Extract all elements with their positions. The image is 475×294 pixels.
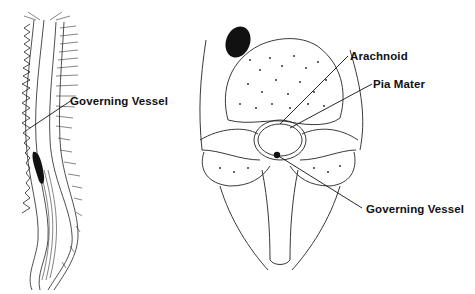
- vertebra-drawing: [190, 0, 475, 294]
- spine-sagittal-illustration: Governing Vessel: [0, 0, 160, 294]
- governing-vessel-leader-right: [277, 155, 362, 208]
- label-governing-vessel-left: Governing Vessel: [70, 95, 168, 107]
- label-arachnoid: Arachnoid: [350, 50, 408, 62]
- arachnoid-leader: [280, 56, 348, 124]
- label-governing-vessel-right: Governing Vessel: [366, 203, 464, 215]
- spine-drawing: [0, 0, 160, 294]
- vertebra-cross-section-illustration: [190, 0, 475, 294]
- pia-mater-leader: [290, 84, 372, 128]
- label-pia-mater: Pia Mater: [373, 78, 425, 90]
